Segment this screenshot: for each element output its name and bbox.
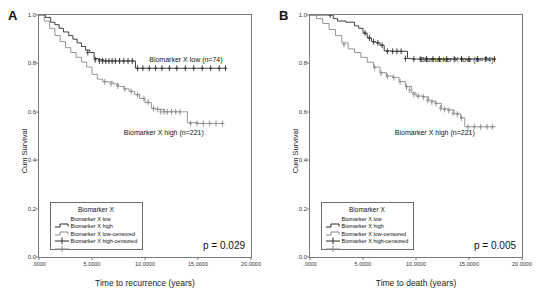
legend-item: Biomarker X low-censored	[326, 230, 409, 238]
y-tick-mark	[307, 160, 310, 161]
y-tick-mark	[36, 63, 39, 64]
censor-marks	[342, 42, 494, 130]
x-tick-mark	[251, 257, 252, 260]
x-tick-label: .0000	[32, 261, 46, 267]
panel-a-x-axis-label: Time to recurrence (years)	[38, 278, 252, 288]
x-tick-mark	[92, 257, 93, 260]
legend-item-label: Biomarker X high-censored	[342, 238, 409, 244]
x-tick-label: 15.0000	[188, 261, 208, 267]
censored-mark-icon	[326, 238, 340, 245]
panel-a-low-curve-label: Biomarker X low (n=74)	[149, 56, 222, 63]
x-tick-mark	[469, 257, 470, 260]
legend-item-label: Biomarker X low-censored	[342, 231, 407, 237]
survival-curve	[310, 15, 496, 127]
legend-item-label: Biomarker X high-censored	[71, 238, 138, 244]
x-tick-label: .0000	[303, 261, 317, 267]
panel-a: A Cum Survival Time to recurrence (years…	[0, 0, 271, 302]
y-tick-mark	[307, 208, 310, 209]
legend-item: Biomarker X high-censored	[326, 237, 409, 245]
y-tick-mark	[307, 111, 310, 112]
y-tick-label: 0.8	[28, 60, 36, 66]
legend-item: Biomarker X high-censored	[55, 237, 138, 245]
panel-b-plot-area: Biomarker X low (n=74) Biomarker X high …	[309, 14, 523, 258]
legend-item: Biomarker X low-censored	[55, 230, 138, 238]
legend-item-label: Biomarker X low	[71, 216, 111, 222]
censored-mark-icon	[326, 230, 340, 237]
step-line-icon	[326, 215, 340, 222]
y-tick-label: 0.0	[299, 254, 307, 260]
legend-item: Biomarker X low	[326, 215, 409, 223]
legend-item: Biomarker X low	[55, 215, 138, 223]
panel-a-high-curve-label: Biomarker X high (n=221)	[124, 129, 204, 136]
x-tick-label: 15.0000	[459, 261, 479, 267]
legend-item: Biomarker X high	[326, 222, 409, 230]
x-tick-label: 10.0000	[135, 261, 155, 267]
y-tick-label: 0.8	[299, 60, 307, 66]
panel-b-legend: Biomarker X Biomarker X lowBiomarker X h…	[321, 202, 415, 250]
y-tick-label: 0.6	[28, 109, 36, 115]
legend-item: Biomarker X high	[55, 222, 138, 230]
x-tick-label: 20.0000	[512, 261, 532, 267]
x-tick-label: 5.0000	[84, 261, 101, 267]
x-tick-mark	[363, 257, 364, 260]
y-tick-mark	[307, 15, 310, 16]
x-tick-mark	[145, 257, 146, 260]
panel-a-legend: Biomarker X Biomarker X lowBiomarker X h…	[50, 202, 144, 250]
legend-item-label: Biomarker X low-censored	[71, 231, 136, 237]
y-tick-label: 0.4	[299, 157, 307, 163]
legend-item-label: Biomarker X high	[342, 223, 384, 229]
panel-a-plot-area: Biomarker X low (n=74) Biomarker X high …	[38, 14, 252, 258]
x-tick-label: 20.0000	[241, 261, 261, 267]
panel-b-pvalue: p = 0.005	[474, 240, 516, 251]
y-tick-mark	[36, 208, 39, 209]
censored-mark-icon	[55, 238, 69, 245]
y-tick-label: 0.2	[28, 206, 36, 212]
panel-a-letter: A	[8, 8, 17, 23]
legend-item-label: Biomarker X high	[71, 223, 113, 229]
y-tick-label: 1.0	[28, 12, 36, 18]
y-tick-mark	[36, 160, 39, 161]
panel-a-pvalue: p = 0.029	[203, 240, 245, 251]
x-tick-label: 5.0000	[355, 261, 372, 267]
panel-b-high-curve-label: Biomarker X high (n=221)	[395, 129, 475, 136]
y-tick-mark	[36, 15, 39, 16]
panel-b: B Cum Survival Time to death (years) Bio…	[271, 0, 542, 302]
step-line-icon	[55, 223, 69, 230]
legend-title: Biomarker X	[326, 206, 409, 213]
x-tick-mark	[416, 257, 417, 260]
legend-title: Biomarker X	[55, 206, 138, 213]
y-tick-mark	[36, 111, 39, 112]
x-tick-mark	[522, 257, 523, 260]
y-tick-label: 0.0	[28, 254, 36, 260]
y-tick-label: 1.0	[299, 12, 307, 18]
y-tick-label: 0.6	[299, 109, 307, 115]
step-line-icon	[55, 215, 69, 222]
x-tick-mark	[39, 257, 40, 260]
panel-b-y-axis-label: Cum Survival	[291, 129, 300, 174]
step-line-icon	[326, 223, 340, 230]
x-tick-mark	[198, 257, 199, 260]
legend-item-label: Biomarker X low	[342, 216, 382, 222]
panel-b-x-axis-label: Time to death (years)	[309, 278, 523, 288]
censored-mark-icon	[55, 230, 69, 237]
panel-b-letter: B	[279, 8, 288, 23]
survival-curve	[310, 15, 496, 59]
x-tick-label: 10.0000	[406, 261, 426, 267]
panel-a-y-axis-label: Cum Survival	[20, 129, 29, 174]
panel-b-low-curve-label: Biomarker X low (n=74)	[420, 56, 493, 63]
survival-curve	[39, 15, 225, 123]
y-tick-label: 0.2	[299, 206, 307, 212]
y-tick-label: 0.4	[28, 157, 36, 163]
kaplan-meier-figure: A Cum Survival Time to recurrence (years…	[0, 0, 542, 302]
x-tick-mark	[310, 257, 311, 260]
y-tick-mark	[307, 63, 310, 64]
